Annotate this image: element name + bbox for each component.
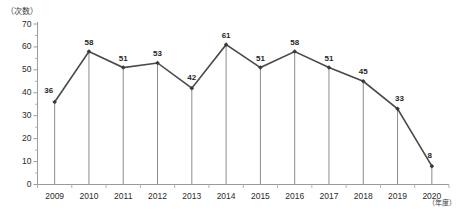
data-point-label: 51 [247,54,273,63]
line-chart: （次数） 706050403020100 2009201020112012201… [0,0,457,216]
data-point-label: 53 [145,49,171,58]
y-axis-tick-label: 40 [10,87,32,97]
x-axis-tick-label: 2012 [140,191,176,201]
x-axis-tick-label: 2009 [37,191,73,201]
x-axis-tick-label: 2013 [174,191,210,201]
data-point-label: 42 [179,73,205,82]
x-axis-tick-label: 2010 [71,191,107,201]
x-axis-ticks [38,185,450,189]
x-axis-tick-label: 2017 [311,191,347,201]
drop-lines-group [55,45,432,185]
x-axis-tick-label: 2014 [208,191,244,201]
y-axis-tick-label: 10 [10,156,32,166]
data-point-label: 51 [316,54,342,63]
chart-screenshot: （次数） 706050403020100 2009201020112012201… [0,0,457,216]
x-axis-unit-label: （年度） [428,197,456,207]
data-point-label: 45 [350,67,376,76]
x-axis-tick-label: 2016 [277,191,313,201]
x-axis-tick-label: 2011 [105,191,141,201]
data-point-label: 58 [76,38,102,47]
y-axis-tick-label: 60 [10,41,32,51]
x-axis-tick-label: 2019 [380,191,416,201]
y-axis-tick-label: 50 [10,64,32,74]
data-point-label: 8 [417,151,443,160]
y-axis-tick-label: 20 [10,133,32,143]
data-point-label: 58 [282,38,308,47]
y-axis-tick-label: 30 [10,110,32,120]
y-axis-tick-label: 0 [10,179,32,189]
data-point-label: 33 [387,94,413,103]
data-point-label: 36 [36,86,62,95]
data-point-label: 61 [213,31,239,40]
x-axis-tick-label: 2015 [242,191,278,201]
data-point-label: 51 [110,54,136,63]
y-axis-tick-label: 70 [10,19,32,29]
y-axis-ticks [34,24,38,185]
x-axis-tick-label: 2018 [345,191,381,201]
series-line [55,45,432,167]
